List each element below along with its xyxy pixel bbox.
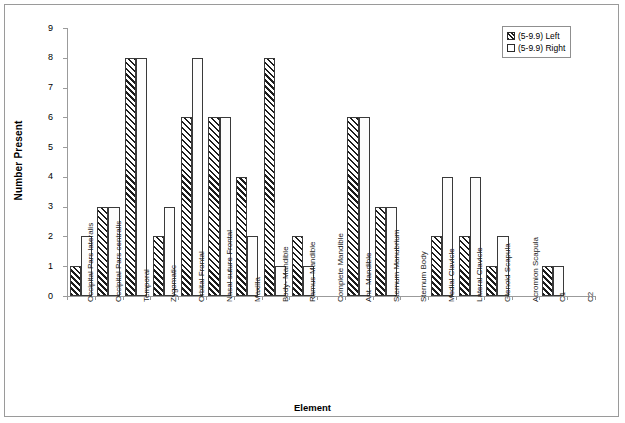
y-axis-tick-labels: 0123456789 bbox=[5, 5, 61, 305]
x-axis-title: Element bbox=[5, 402, 620, 413]
bar-left bbox=[375, 207, 386, 296]
legend-label-left: (5-9.9) Left bbox=[518, 32, 560, 41]
x-axis-category-label: Glenoid Scapula bbox=[504, 243, 512, 302]
x-axis-category-label: Sternum Manubrium bbox=[393, 230, 401, 302]
x-axis-tick bbox=[178, 296, 179, 300]
y-axis-tick-label: 6 bbox=[13, 113, 53, 122]
bar-left bbox=[264, 58, 275, 296]
bar-left bbox=[153, 236, 164, 296]
bar-left bbox=[125, 58, 136, 296]
x-axis-tick bbox=[456, 296, 457, 300]
y-axis-tick-label: 3 bbox=[13, 202, 53, 211]
plot-area bbox=[67, 28, 595, 296]
chart-legend: (5-9.9) Left (5-9.9) Right bbox=[502, 26, 571, 58]
bar-right bbox=[136, 58, 147, 296]
y-axis-tick-label: 8 bbox=[13, 53, 53, 62]
x-axis-category-label: Temporal bbox=[143, 269, 151, 302]
x-axis-category-label: Body- Mandible bbox=[282, 246, 290, 302]
legend-item-left: (5-9.9) Left bbox=[507, 30, 565, 42]
x-axis-category-label: Orbital Frontal bbox=[198, 251, 206, 302]
bar-left bbox=[181, 117, 192, 296]
x-axis-category-label: C1 bbox=[559, 292, 567, 302]
bar-left bbox=[208, 117, 219, 296]
x-axis-tick bbox=[345, 296, 346, 300]
y-axis-tick-label: 7 bbox=[13, 83, 53, 92]
x-axis-tick bbox=[428, 296, 429, 300]
x-axis-category-label: Medial Clavicle bbox=[448, 248, 456, 302]
bar-left bbox=[486, 266, 497, 296]
y-axis-tick-label: 0 bbox=[13, 292, 53, 301]
bar-group bbox=[123, 28, 151, 296]
bar-group bbox=[234, 28, 262, 296]
bar-left bbox=[70, 266, 81, 296]
x-axis-category-label: Lateral Clavicle bbox=[476, 247, 484, 302]
x-axis-tick bbox=[67, 296, 68, 300]
y-axis-tick-label: 5 bbox=[13, 143, 53, 152]
bar-left bbox=[542, 266, 553, 296]
bar-left bbox=[292, 236, 303, 296]
bar-left bbox=[431, 236, 442, 296]
x-axis-tick bbox=[567, 296, 568, 300]
bar-left bbox=[459, 236, 470, 296]
bar-left bbox=[347, 117, 358, 296]
x-axis-category-label: Complete Mandible bbox=[337, 233, 345, 302]
x-axis-tick bbox=[206, 296, 207, 300]
y-axis-tick-label: 2 bbox=[13, 232, 53, 241]
chart-frame: Number Present 0123456789 Occipital Pars… bbox=[4, 4, 619, 417]
y-axis-tick-label: 9 bbox=[13, 24, 53, 33]
x-axis-category-label: Occipital Pars lateralis bbox=[87, 223, 95, 302]
bar-left bbox=[236, 177, 247, 296]
x-axis-category-label: Nasal suture Frontal bbox=[226, 230, 234, 302]
x-axis-tick bbox=[595, 296, 596, 300]
y-axis-tick-label: 1 bbox=[13, 262, 53, 271]
x-axis-category-label: Sternum Body bbox=[420, 251, 428, 302]
x-axis-category-label: Acromion Scapula bbox=[532, 237, 540, 302]
bar-group bbox=[539, 28, 567, 296]
legend-swatch-right-icon bbox=[507, 44, 515, 52]
x-axis-category-label: Maxilla bbox=[254, 277, 262, 302]
x-axis-category-label: Occipital Pars centralis bbox=[115, 221, 123, 302]
legend-label-right: (5-9.9) Right bbox=[518, 44, 565, 53]
bar-left bbox=[97, 207, 108, 296]
legend-item-right: (5-9.9) Right bbox=[507, 42, 565, 54]
x-axis-category-label: Ramus-Mandible bbox=[309, 242, 317, 302]
x-axis-category-label: C2 bbox=[587, 292, 595, 302]
y-axis-tick-label: 4 bbox=[13, 172, 53, 181]
bar-group bbox=[567, 28, 595, 296]
x-axis-category-label: Ant- Mandible bbox=[365, 253, 373, 302]
x-axis-category-label: Zygomatic bbox=[170, 265, 178, 302]
legend-swatch-left-icon bbox=[507, 32, 515, 40]
bar-group bbox=[150, 28, 178, 296]
x-axis-tick bbox=[317, 296, 318, 300]
